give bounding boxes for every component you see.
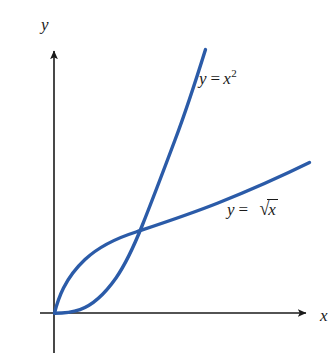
sqrt-label-lhs: y xyxy=(227,200,235,219)
radical-group: √x xyxy=(258,198,277,218)
radicand-x: x xyxy=(267,201,277,218)
x-axis-label: x xyxy=(320,307,328,324)
parabola-label-base: x xyxy=(223,69,231,88)
sqrt-label-relation: = xyxy=(239,200,249,219)
curve-y-equals-x-squared xyxy=(55,50,206,314)
parabola-label-exponent: 2 xyxy=(231,67,237,79)
curve-y-equals-sqrt-x xyxy=(55,163,310,314)
parabola-label-lhs: y xyxy=(199,69,207,88)
parabola-label-relation: = xyxy=(211,69,221,88)
graph-figure: y=x2 y=√x y x xyxy=(0,0,336,353)
y-axis-label: y xyxy=(41,16,49,33)
curve-label-sqrt: y=√x xyxy=(227,198,277,218)
curves-group xyxy=(55,50,310,314)
plot-canvas xyxy=(0,0,336,353)
curve-label-parabola: y=x2 xyxy=(199,70,237,87)
